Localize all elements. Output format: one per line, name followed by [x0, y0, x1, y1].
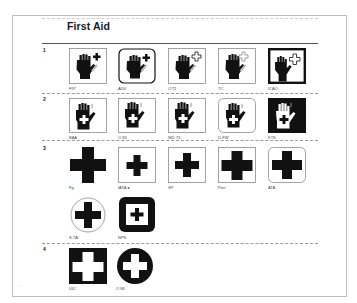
symbol-o84: O 84 [118, 98, 156, 134]
symbol-tc: TC [218, 48, 256, 84]
symbol-label: SP [168, 185, 173, 190]
symbol-icao: ICAO [268, 48, 306, 84]
footer-mark: — [18, 283, 22, 288]
page-title: First Aid [67, 20, 110, 32]
symbol-wd73: WD 73 [168, 98, 206, 134]
cross-icon [168, 147, 206, 183]
symbol-label: ATA [268, 185, 275, 190]
symbol-adv: ADV [118, 48, 156, 84]
symbol-label: NPS [118, 235, 126, 240]
hand-outline-plus-icon [268, 48, 306, 84]
symbol-label: Port [218, 185, 225, 190]
symbol-label: F97 [69, 86, 76, 91]
symbol-label: IATA ● [118, 185, 130, 190]
hand-cross-icon [118, 98, 156, 134]
hand-outline-plus-icon [218, 48, 256, 84]
symbol-label: UIC [69, 286, 76, 291]
symbol-label: TC [218, 86, 223, 91]
symbol-s-ta: S-TA [69, 197, 107, 233]
hand-plus-icon [69, 48, 107, 84]
circle-cross-icon [69, 197, 107, 233]
symbol-port: Port [218, 147, 256, 183]
circle-white-cross-icon [116, 248, 154, 284]
top-divider [42, 18, 318, 19]
symbol-sp: SP [168, 147, 206, 183]
hand-cross-icon [168, 98, 206, 134]
symbol-label: S-TA [69, 235, 78, 240]
symbol-nps: NPS [118, 197, 156, 233]
symbol-label: ICAO [268, 86, 278, 91]
symbol-fg: Fg [69, 147, 107, 183]
hand-outline-plus-icon [168, 48, 206, 84]
symbol-label: ADV [118, 86, 126, 91]
symbol-label: Fg [69, 185, 74, 190]
row-number-4: 4 [43, 246, 46, 252]
cross-icon [218, 147, 256, 183]
symbol-baa: BAA [69, 98, 107, 134]
row-number-1: 1 [43, 47, 46, 53]
symbol-f97: F97 [69, 48, 107, 84]
symbol-iata: IATA ● [118, 147, 156, 183]
boxed-cross-icon [118, 197, 156, 233]
symbol-o86: O 86 [116, 248, 154, 284]
symbol-uic: UIC [69, 248, 107, 284]
row-divider [42, 243, 318, 244]
row-divider [42, 93, 318, 94]
hand-cross-inverted-icon [268, 98, 306, 134]
hand-plus-icon [118, 48, 156, 84]
symbol-kts: KTS [268, 98, 306, 134]
row-divider [42, 140, 318, 141]
symbol-o72: O'72 [168, 48, 206, 84]
title-rule [42, 43, 318, 44]
symbol-label: O'72 [168, 86, 176, 91]
symbol-dfw: D-FW [218, 98, 256, 134]
cross-icon [69, 147, 107, 183]
hand-cross-icon [218, 98, 256, 134]
row-number-2: 2 [43, 96, 46, 102]
square-white-cross-icon [69, 248, 107, 284]
symbol-ata: ATA [268, 147, 306, 183]
row-number-3: 3 [43, 145, 46, 151]
cross-icon [118, 147, 156, 183]
symbol-label: O 86 [116, 286, 125, 291]
cross-icon [268, 147, 306, 183]
hand-cross-icon [69, 98, 107, 134]
